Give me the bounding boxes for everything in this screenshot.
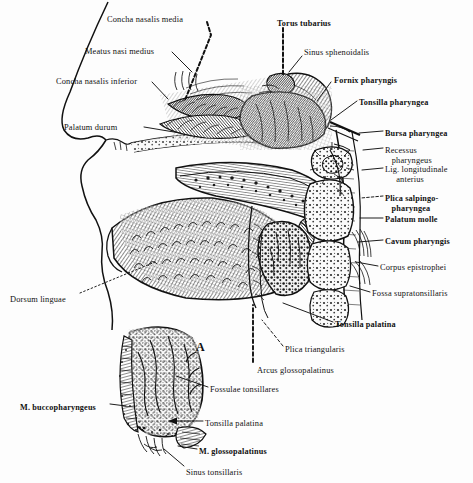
label-palatum-durum: Palatum durum — [64, 123, 117, 133]
label-concha-nasalis-inferior: Concha nasalis inferior — [56, 77, 137, 87]
label-tonsilla-palatina-main: Tonsilla palatina — [335, 320, 396, 330]
label-palatum-molle: Palatum molle — [385, 215, 438, 225]
dens-axis — [322, 155, 342, 173]
label-m-glossopalatinus: M. glossopalatinus — [199, 447, 267, 457]
label-meatus-nasi-medius: Meatus nasi medius — [85, 47, 154, 57]
label-fossulae-tonsillares: Fossulae tonsillares — [210, 385, 279, 395]
label-fossa-supratonsillaris: Fossa supratonsillaris — [372, 289, 448, 299]
label-m-buccopharyngeus: M. buccopharyngeus — [20, 403, 96, 413]
label-tonsilla-palatina-inset: Tonsilla palatina — [205, 419, 263, 429]
label-corpus-epistrophei: Corpus epistrophei — [380, 263, 446, 273]
label-plica-triangularis: Plica triangularis — [285, 345, 345, 355]
label-arcus-glossopalatinus: Arcus glossopalatinus — [257, 366, 334, 376]
label-tonsilla-pharyngea: Tonsilla pharyngea — [359, 98, 429, 108]
tonsilla-pharyngea-structure — [240, 86, 332, 150]
label-torus-tubarius: Torus tubarius — [277, 19, 331, 29]
label-sinus-sphenoidalis: Sinus sphenoidalis — [304, 48, 369, 58]
label-fornix-pharyngis: Fornix pharyngis — [334, 76, 397, 86]
label-concha-nasalis-media: Concha nasalis media — [107, 15, 183, 25]
label-bursa-pharyngea: Bursa pharyngea — [385, 129, 448, 139]
label-cavum-pharyngis: Cavum pharyngis — [385, 237, 450, 247]
label-dorsum-linguae: Dorsum linguae — [10, 295, 66, 305]
figure-letter-a: A — [196, 340, 205, 355]
label-lig-longitudinale-anterius: Lig. longitudinale anterius — [385, 165, 448, 185]
label-recessus-pharyngeus: Recessus pharyngeus — [385, 146, 432, 166]
label-plica-salpingopharyngea: Plica salpingo- pharyngea — [385, 194, 438, 213]
anatomical-plate: Concha nasalis media Torus tubarius Meat… — [0, 0, 473, 483]
label-sinus-tonsillaris: Sinus tonsillaris — [186, 468, 242, 478]
